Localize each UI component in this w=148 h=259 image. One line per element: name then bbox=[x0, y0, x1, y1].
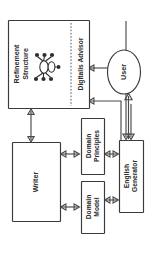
domain-model-label-group: Domain Model bbox=[85, 195, 100, 220]
domain-principles-label-line1: Domain bbox=[85, 134, 92, 159]
writer-label: Writer bbox=[32, 172, 40, 193]
node-english-generator[interactable]: English Generator bbox=[120, 141, 144, 213]
connector-writer-domain-model bbox=[61, 204, 80, 210]
connector-refinement-writer bbox=[28, 109, 34, 142]
connector-user-to-advisor bbox=[89, 65, 109, 71]
english-generator-label-line2: Generator bbox=[131, 160, 138, 193]
refinement-structure-label-line2: Structure bbox=[22, 48, 30, 80]
domain-principles-label-group: Domain Principles bbox=[85, 130, 101, 162]
english-generator-label-line1: English bbox=[123, 164, 131, 188]
domain-principles-label-line2: Principles bbox=[93, 130, 101, 162]
node-refinement-structure[interactable]: Refinement Structure Digitalis Advisor bbox=[9, 21, 90, 109]
digitalis-advisor-label-group: Digitalis Advisor bbox=[77, 37, 85, 90]
connector-principles-generator bbox=[105, 151, 119, 157]
node-user[interactable]: User bbox=[108, 50, 141, 94]
refinement-structure-label-group: Refinement Structure bbox=[13, 44, 30, 83]
connector-model-generator bbox=[105, 197, 119, 203]
node-writer[interactable]: Writer bbox=[13, 143, 61, 222]
english-generator-label-group: English Generator bbox=[123, 160, 138, 193]
refinement-structure-label-line1: Refinement bbox=[13, 44, 21, 83]
node-domain-model[interactable]: Domain Model bbox=[82, 182, 105, 234]
digitalis-advisor-label: Digitalis Advisor bbox=[77, 37, 85, 90]
domain-model-label-line1: Domain bbox=[85, 195, 92, 220]
node-domain-principles[interactable]: Domain Principles bbox=[82, 119, 105, 175]
user-label: User bbox=[120, 64, 128, 80]
connector-writer-domain-principles bbox=[61, 151, 80, 157]
diagram-canvas: Writer (double headed, vertical in image… bbox=[0, 0, 148, 259]
writer-label-group: Writer bbox=[32, 172, 40, 193]
user-label-group: User bbox=[120, 64, 128, 80]
domain-model-label-line2: Model bbox=[93, 197, 100, 217]
